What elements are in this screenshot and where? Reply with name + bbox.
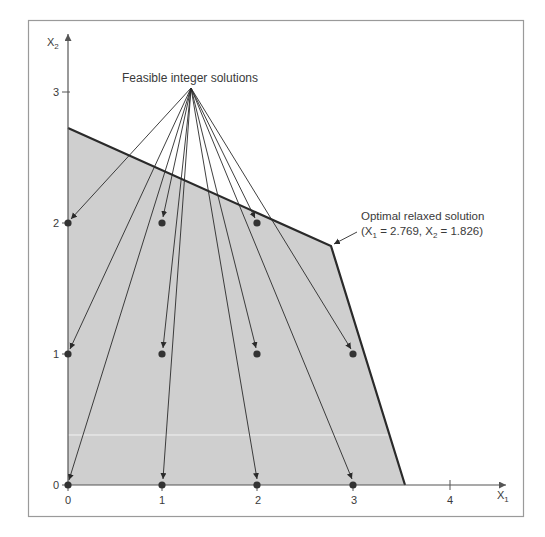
feasible-region (68, 128, 405, 485)
x-tick-label: 0 (65, 494, 71, 506)
optimal-solution-values: (X1 = 2.769, X2 = 1.826) (361, 225, 483, 240)
y-tick-label: 2 (53, 217, 59, 229)
integer-point (349, 481, 356, 488)
integer-point (253, 481, 260, 488)
feasible-solutions-label: Feasible integer solutions (122, 71, 258, 85)
x-tick-label: 3 (351, 494, 357, 506)
lp-diagram: 0 1 2 3 4 X1 0 1 2 3 X2 (0, 0, 545, 537)
optimal-pointer-arrow (334, 232, 357, 244)
integer-point (349, 350, 356, 357)
x-axis-label: X1 (497, 489, 509, 504)
y-axis-label: X2 (47, 36, 59, 51)
integer-point (253, 219, 260, 226)
x-tick-label: 2 (255, 494, 261, 506)
integer-point (253, 350, 260, 357)
integer-point (64, 481, 71, 488)
integer-point (158, 481, 165, 488)
optimal-solution-label: Optimal relaxed solution (361, 210, 484, 222)
y-tick-label: 1 (53, 348, 59, 360)
y-tick-label: 0 (53, 479, 59, 491)
integer-point (158, 350, 165, 357)
integer-point (64, 219, 71, 226)
x-tick-label: 1 (159, 494, 165, 506)
integer-point (64, 350, 71, 357)
integer-point (158, 219, 165, 226)
y-tick-label: 3 (53, 86, 59, 98)
x-tick-label: 4 (447, 494, 453, 506)
